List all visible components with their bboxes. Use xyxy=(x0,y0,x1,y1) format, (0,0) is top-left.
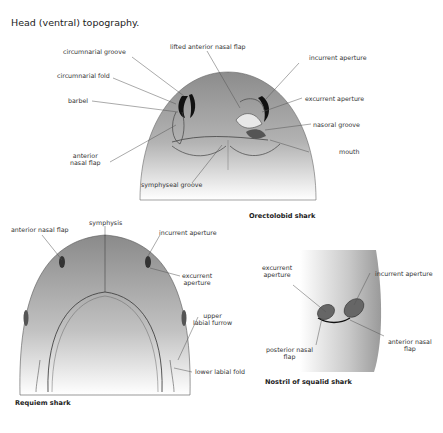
label-incurrent-aperture: incurrent aperture xyxy=(375,270,433,277)
label-anterior-nasal-flap: anterior nasal flap xyxy=(11,226,69,233)
caption-squalid: Nostril of squalid shark xyxy=(265,378,352,386)
caption-requiem: Requiem shark xyxy=(15,399,71,407)
label-circumnarial-fold: circumnarial fold xyxy=(57,72,110,79)
requiem-head xyxy=(20,235,190,395)
label-posterior-nasal-flap: posterior nasal flap xyxy=(266,346,313,360)
label-lower-labial-fold: lower labial fold xyxy=(195,368,245,375)
label-symphysis: symphysis xyxy=(89,219,122,226)
label-excurrent-aperture: excurrent aperture xyxy=(305,95,364,102)
caption-orectolobid: Orectolobid shark xyxy=(249,212,315,220)
label-incurrent-aperture: incurrent aperture xyxy=(159,229,217,236)
label-excurrent-aperture: excurrent aperture xyxy=(182,272,212,286)
label-anterior-nasal-flap: anterior nasal flap xyxy=(388,338,432,352)
figure-title: Head (ventral) topography. xyxy=(11,17,139,28)
label-circumnarial-groove: circumnarial groove xyxy=(63,48,126,55)
label-nasoral-groove: nasoral groove xyxy=(313,121,360,128)
label-incurrent-aperture: incurrent aperture xyxy=(309,54,367,61)
label-excurrent-aperture: excurrent aperture xyxy=(262,264,292,278)
label-barbel: barbel xyxy=(68,97,88,104)
label-anterior-nasal-flap: anterior nasal flap xyxy=(70,152,101,166)
label-mouth: mouth xyxy=(339,148,359,155)
label-upper-labial-furrow: upper labial furrow xyxy=(193,312,232,326)
label-symphyseal-groove: symphyseal groove xyxy=(141,181,202,188)
label-lifted-anterior-nasal-flap: lifted anterior nasal flap xyxy=(170,43,245,50)
